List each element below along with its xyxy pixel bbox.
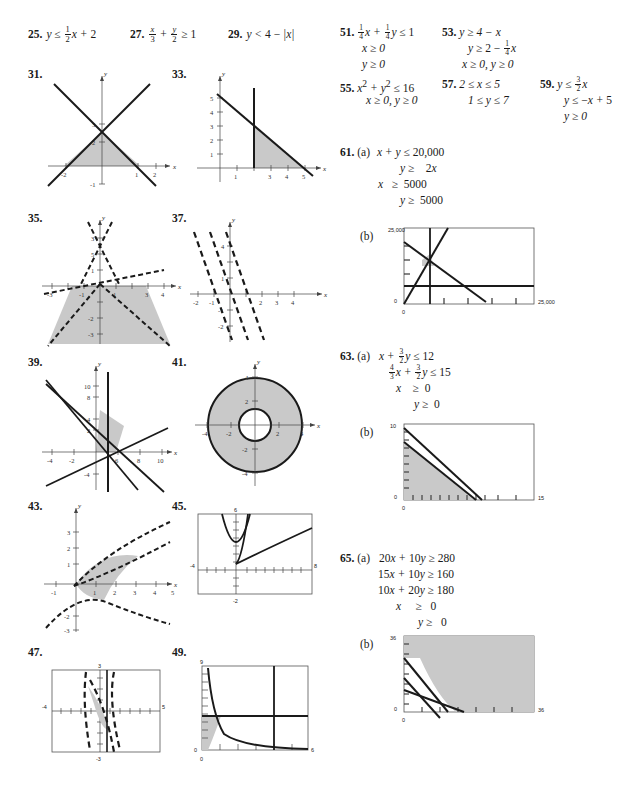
graph-65b-origin-x: 0 [402,717,405,723]
graph-35: -3 -1 1 3 4 1 3 -2 -3 5 x y [28,214,183,346]
svg-text:-3: -3 [64,627,69,634]
graph-45-xmin: -4 [190,563,195,569]
graph-63b: 0 0 15 [386,420,636,532]
svg-text:2: 2 [67,545,70,552]
svg-text:10: 10 [84,383,91,390]
graph-45-xmax: 8 [314,563,317,569]
svg-text:y: y [101,214,106,222]
graph-37: -2 -1 2 3 4 1 4 -1 -2 x y [180,214,330,346]
svg-text:-4: -4 [202,430,208,437]
answer-51-row-2: x ≥ 0 [362,42,385,54]
graph-47-ymin: -3 [96,756,101,762]
answer-25-number: 25. [28,28,42,40]
svg-text:4: 4 [291,299,295,306]
answer-51-number: 51. [340,26,354,38]
svg-text:5: 5 [91,251,94,258]
svg-text:-2: -2 [64,613,69,620]
graph-41: -4 -2 2 4 4 2 -2 -4 x y [185,356,325,494]
answer-65-row-4: x ≥ 0 [396,600,436,612]
svg-text:x: x [173,581,178,589]
answer-29: 29. y < 4 − |x| [228,24,294,42]
svg-text:3: 3 [133,589,136,596]
graph-61b-ymax: 25,000 [388,218,405,236]
answer-27: 27. x3 + y2 ≥ 1 [130,24,196,45]
answer-63-row-2: 43x + 32y ≤ 15 [388,366,451,378]
svg-text:3: 3 [210,123,213,130]
graph-63b-origin-y: 0 [394,494,397,500]
graph-45-ymin: -2 [233,598,238,604]
answer-61-row-4: y ≥ 5000 [400,194,443,206]
graph-47: 3 -4 5 -3 [40,660,170,770]
answer-25-expression: y ≤ 12x + 2 [46,28,96,40]
answer-53-row-3: x ≥ 0, y ≥ 0 [462,58,514,70]
svg-text:1: 1 [91,267,94,274]
svg-text:-1: -1 [209,299,214,306]
answer-53-row-2: y ≥ 2 − 14x [468,42,516,54]
answer-25: 25. y ≤ 12x + 2 [28,24,96,45]
svg-text:x: x [322,165,327,173]
answer-63-part-b-label: (b) [360,422,373,440]
answer-53: 53. y ≥ 4 − x y ≥ 2 − 14x x ≥ 0, y ≥ 0 [442,24,516,72]
answer-63-part-a: (a) [357,350,370,362]
answer-61-row-2: y ≥ 2x [400,162,437,174]
graph-49: 9 0 0 6 [188,658,320,770]
answer-55-row-2: x ≥ 0, y ≥ 0 [366,94,418,106]
answer-63-row-3: x ≥ 0 [396,382,430,394]
svg-text:3: 3 [275,299,278,306]
svg-text:2: 2 [210,137,213,144]
answer-57: 57. 2 ≤ x ≤ 5 1 ≤ y ≤ 7 [442,76,509,108]
graph-65b-ymax: 36 [390,626,396,644]
answer-65-number: 65. [340,552,354,564]
answer-51-row-3: y ≥ 0 [362,58,385,70]
graph-31: -2 1 2 2 3 -1 x y [30,66,180,186]
svg-text:5: 5 [171,589,174,596]
answer-65-row-3: 10x + 20y ≥ 180 [378,584,454,596]
graph-49-ymin: 0 [194,747,197,753]
svg-text:y: y [97,360,102,368]
svg-text:-4: -4 [84,471,90,478]
answer-29-number: 29. [228,28,242,40]
svg-text:y: y [256,358,261,366]
answer-61-part-b-label: (b) [360,226,373,244]
answer-59-row-3: y ≥ 0 [564,110,587,122]
svg-text:-2: -2 [69,457,74,464]
graph-61b: 0 0 25,000 [386,224,636,336]
answer-61-part-a: (a) [357,146,370,158]
graph-49-xmin: 0 [200,756,203,762]
graph-33: 1 3 4 5 1 2 3 4 5 x y [175,66,325,186]
svg-text:1: 1 [210,151,213,158]
graph-47-xmin: -4 [42,704,47,710]
answer-63-row-1: x + 32y ≤ 12 [379,350,434,362]
graph-45-ymax: 6 [234,507,237,513]
answer-51: 51. 14x + 14y ≤ 1 x ≥ 0 y ≥ 0 [340,24,414,72]
answer-47-number: 47. [28,642,42,660]
svg-text:4: 4 [300,430,304,437]
svg-text:-2: -2 [88,315,93,322]
svg-text:4: 4 [161,291,165,298]
graph-65b-origin-y: 0 [394,706,397,712]
svg-text:3: 3 [268,173,271,180]
answer-65-row-1: 20x + 10y ≥ 280 [379,552,455,564]
svg-text:-3: -3 [47,291,52,298]
graph-43: -1 1 2 3 4 5 1 2 3 -2 -3 x y [30,500,182,636]
graph-45: 6 -4 8 -2 [190,508,320,608]
svg-text:4: 4 [285,173,289,180]
svg-text:-3: -3 [88,331,93,338]
svg-text:1: 1 [234,173,237,180]
svg-text:y: y [77,502,82,510]
answer-59: 59. y ≤ 32x y ≤ −x + 5 y ≥ 0 [540,76,612,124]
graph-65b: 0 0 36 [386,632,636,744]
answer-65-part-b-label: (b) [360,634,373,652]
svg-text:10: 10 [157,457,164,464]
svg-text:3: 3 [91,235,94,242]
svg-text:5: 5 [210,95,213,102]
svg-text:-2: -2 [193,299,198,306]
answer-55-number: 55. [340,82,354,94]
answer-55: 55. x2 + y2 ≤ 16 x ≥ 0, y ≥ 0 [340,76,418,108]
answer-59-row-1: y ≤ 32x [557,78,587,90]
svg-text:1: 1 [221,275,224,282]
svg-text:8: 8 [137,457,140,464]
graph-47-ymax: 3 [98,663,101,669]
answer-53-number: 53. [442,26,456,38]
graph-65b-xmax: 36 [538,707,544,713]
